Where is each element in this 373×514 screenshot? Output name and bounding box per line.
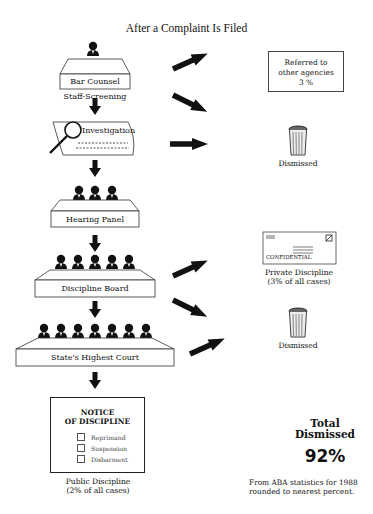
trash-can-icon (289, 308, 307, 337)
checkbox-icon (77, 433, 85, 441)
state-highest-court-label: State's Highest Court (16, 353, 174, 362)
private-discipline-label: Private Discipline (3% of all cases) (250, 268, 348, 286)
bar-counsel-label: Bar Counsel (60, 77, 130, 86)
notice-of-discipline: NOTICE OF DISCIPLINE Reprimand Suspensio… (50, 397, 145, 473)
footnote-line1: From ABA statistics for 1988 (249, 478, 358, 487)
option-reprimand: Reprimand (77, 432, 144, 443)
public-line1: Public Discipline (48, 477, 148, 486)
public-line2: (2% of all cases) (48, 486, 148, 495)
public-discipline-label: Public Discipline (2% of all cases) (48, 477, 148, 495)
total-dismissed-heading: Total Dismissed (280, 418, 370, 440)
referred-box: Referred to other agencies 3 % (268, 51, 344, 92)
option-suspension: Suspension (77, 443, 144, 454)
referred-line2: other agencies (269, 68, 343, 78)
option-disbarment: Disbarment (77, 454, 144, 465)
private-line2: (3% of all cases) (250, 277, 348, 286)
investigation-label: Investigation (82, 126, 135, 135)
arrow-up-right-icon (171, 255, 211, 281)
notice-title-line2: OF DISCIPLINE (51, 417, 144, 426)
checkbox-icon (77, 444, 85, 452)
arrow-right-icon (170, 138, 208, 150)
confidential-stamp: CONFIDENTIAL (266, 254, 311, 260)
dismissed-label-1: Dismissed (268, 159, 328, 168)
arrow-up-right-icon (188, 333, 228, 359)
source-footnote: From ABA statistics for 1988 rounded to … (249, 478, 358, 496)
total-line2: Dismissed (280, 429, 370, 440)
arrow-down-icon (89, 160, 101, 177)
arrow-down-icon (89, 372, 101, 389)
dismissed-label-2: Dismissed (268, 341, 328, 350)
diagram-title: After a Complaint Is Filed (0, 22, 373, 34)
arrow-down-right-icon (170, 295, 209, 322)
hearing-panel-label: Hearing Panel (51, 215, 139, 224)
referred-line1: Referred to (269, 58, 343, 68)
arrow-up-right-icon (171, 48, 211, 74)
checkbox-icon (77, 455, 85, 463)
referred-percent: 3 % (269, 78, 343, 88)
discipline-board-label: Discipline Board (35, 284, 155, 293)
private-line1: Private Discipline (250, 268, 348, 277)
trash-can-icon (289, 126, 307, 155)
total-dismissed-percent: 92% (280, 446, 370, 466)
footnote-line2: rounded to nearest percent. (249, 487, 358, 496)
staff-screening-label: Staff-Screening (55, 92, 135, 101)
magnifier-icon (65, 122, 81, 138)
arrow-down-icon (89, 235, 101, 252)
arrow-down-icon (89, 301, 101, 318)
notice-title-line1: NOTICE (51, 408, 144, 417)
arrow-down-right-icon (170, 90, 209, 117)
